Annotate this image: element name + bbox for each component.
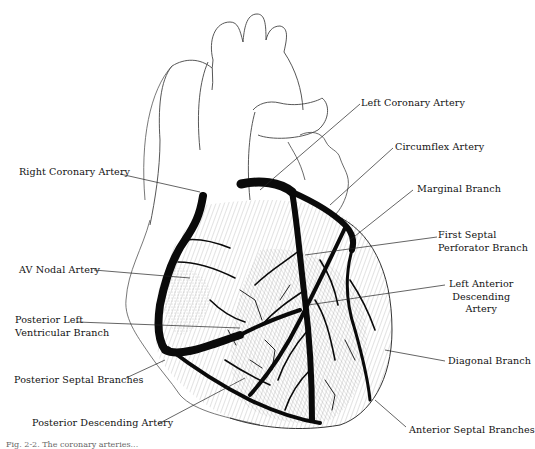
label-diagonal-branch: Diagonal Branch <box>448 355 531 368</box>
label-av-nodal-artery: AV Nodal Artery <box>19 264 100 277</box>
label-anterior-septal-branches: Anterior Septal Branches <box>409 424 535 437</box>
label-left-anterior-descending: Left Anterior Descending Artery <box>449 278 513 316</box>
label-left-coronary-artery: Left Coronary Artery <box>361 97 465 110</box>
label-circumflex-artery: Circumflex Artery <box>395 141 484 154</box>
figure-caption: Fig. 2-2. The coronary arteries... <box>6 440 138 449</box>
label-posterior-septal-branches: Posterior Septal Branches <box>14 374 144 387</box>
label-marginal-branch: Marginal Branch <box>417 183 501 196</box>
label-posterior-descending-artery: Posterior Descending Artery <box>32 417 173 430</box>
label-posterior-left-ventricular-branch: Posterior Left Ventricular Branch <box>15 314 109 339</box>
label-first-septal-perforator: First Septal Perforator Branch <box>438 229 528 254</box>
left-coronary-vessel <box>241 182 292 192</box>
label-right-coronary-artery: Right Coronary Artery <box>19 166 130 179</box>
